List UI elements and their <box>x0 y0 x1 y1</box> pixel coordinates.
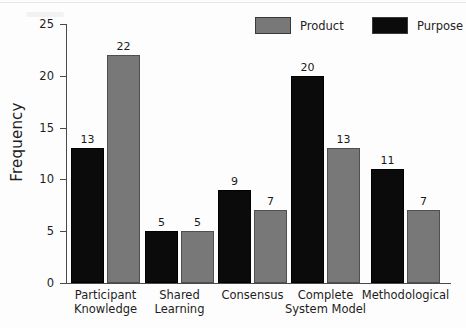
chart-page: Product Purpose Frequency 05101520251322… <box>0 0 466 328</box>
y-axis-tick-label: 0 <box>28 276 54 290</box>
bar-value-label: 7 <box>254 195 287 208</box>
bar-value-label: 5 <box>181 216 214 229</box>
bar-value-label: 7 <box>407 195 440 208</box>
y-axis-tick <box>60 128 67 129</box>
bar-product-4 <box>407 210 440 283</box>
bar-product-3 <box>327 148 360 283</box>
bar-product-0 <box>107 55 140 283</box>
y-axis-tick-label: 5 <box>28 224 54 238</box>
y-axis-tick <box>60 283 67 284</box>
y-axis-tick <box>60 76 67 77</box>
bar-value-label: 22 <box>107 40 140 53</box>
bar-value-label: 13 <box>71 133 104 146</box>
y-axis-tick-label: 20 <box>28 69 54 83</box>
y-axis-tick <box>60 231 67 232</box>
y-axis-tick <box>60 24 67 25</box>
bar-value-label: 5 <box>145 216 178 229</box>
bar-purpose-3 <box>291 76 324 283</box>
bar-purpose-1 <box>145 231 178 283</box>
bar-purpose-2 <box>218 190 251 283</box>
bar-value-label: 9 <box>218 175 251 188</box>
bar-purpose-0 <box>71 148 104 283</box>
bar-value-label: 20 <box>291 61 324 74</box>
bar-purpose-4 <box>371 169 404 283</box>
x-axis-category-label: Methodological <box>356 289 456 303</box>
plot-area: 05101520251322Participant Knowledge55Sha… <box>0 0 466 328</box>
y-axis-tick-label: 25 <box>28 17 54 31</box>
bar-product-1 <box>181 231 214 283</box>
y-axis-tick-label: 15 <box>28 121 54 135</box>
y-axis-tick <box>60 179 67 180</box>
bar-value-label: 13 <box>327 133 360 146</box>
bar-product-2 <box>254 210 287 283</box>
bar-value-label: 11 <box>371 154 404 167</box>
y-axis-tick-label: 10 <box>28 172 54 186</box>
